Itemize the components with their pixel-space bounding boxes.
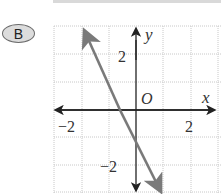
y-tick-2: 2 — [118, 48, 126, 65]
coordinate-graph: y x O 2 −2 −2 2 — [0, 0, 221, 194]
x-axis-label: x — [201, 88, 210, 107]
x-tick-neg2: −2 — [58, 118, 75, 135]
graph-line-down — [120, 110, 160, 190]
axes — [56, 29, 214, 190]
y-tick-neg2: −2 — [100, 158, 117, 175]
y-axis-label: y — [143, 25, 153, 44]
graph-line — [85, 32, 120, 110]
x-tick-2: 2 — [185, 118, 193, 135]
origin-label: O — [141, 90, 153, 107]
